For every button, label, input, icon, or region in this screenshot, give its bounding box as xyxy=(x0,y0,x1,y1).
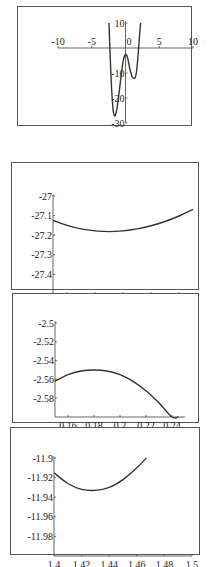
plot-canvas: -1.64-1.62-1.6-1.58-1.56-27-27.1-27.2-27… xyxy=(12,163,200,291)
y-tick-label: -30 xyxy=(111,118,124,129)
y-tick-label: -2.52 xyxy=(33,336,54,347)
x-tick-label: 1.48 xyxy=(156,559,174,567)
y-tick-label: -27.4 xyxy=(31,269,52,280)
data-curve xyxy=(54,458,146,490)
x-tick-label: 1.5 xyxy=(186,559,199,567)
y-tick-label: -11.9 xyxy=(33,453,53,464)
x-tick-label: 1.42 xyxy=(73,559,91,567)
data-curve xyxy=(53,209,193,231)
y-tick-label: 10 xyxy=(115,18,125,29)
plot-canvas: -10-5051010-10-20-30 xyxy=(18,7,193,127)
y-tick-label: -2.56 xyxy=(33,374,54,385)
y-tick-label: -11.98 xyxy=(28,531,53,542)
y-tick-label: -2.5 xyxy=(38,318,54,329)
x-tick-label: 1.44 xyxy=(100,559,118,567)
x-tick-label: 0 xyxy=(127,36,132,47)
y-tick-label: -11.94 xyxy=(28,492,53,503)
x-tick-label: 1.46 xyxy=(128,559,146,567)
y-tick-label: -11.92 xyxy=(28,472,53,483)
x-tick-label: -5 xyxy=(88,36,96,47)
plot-canvas: 0.160.180.20.220.24-2.5-2.52-2.54-2.56-2… xyxy=(13,294,200,424)
y-tick-label: -27.1 xyxy=(31,210,52,221)
x-tick-label: 1.4 xyxy=(48,559,61,567)
y-tick-label: -2.54 xyxy=(33,355,54,366)
x-tick-label: 5 xyxy=(157,36,162,47)
x-tick-label: 10 xyxy=(188,36,198,47)
y-tick-label: -2.58 xyxy=(33,393,54,404)
plot-panel-2: -1.64-1.62-1.6-1.58-1.56-27-27.1-27.2-27… xyxy=(11,162,199,290)
y-tick-label: -27.3 xyxy=(31,249,52,260)
y-tick-label: -27 xyxy=(39,191,52,202)
x-tick-label: -10 xyxy=(51,36,64,47)
plot-panel-3: 0.160.180.20.220.24-2.5-2.52-2.54-2.56-2… xyxy=(12,293,199,423)
plot-panel-1: -10-5051010-10-20-30 xyxy=(17,6,192,126)
y-tick-label: -27.2 xyxy=(31,230,52,241)
plot-panel-4: 1.41.421.441.461.481.5-11.9-11.92-11.94-… xyxy=(10,427,200,555)
plot-canvas: 1.41.421.441.461.481.5-11.9-11.92-11.94-… xyxy=(11,428,201,556)
y-tick-label: -11.96 xyxy=(28,511,53,522)
data-curve xyxy=(55,370,179,418)
